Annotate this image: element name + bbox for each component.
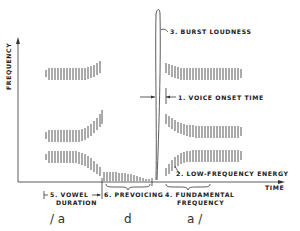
phoneme-labels: / a d a / [50,212,203,226]
voice-onset-time-label: 1. VOICE ONSET TIME [178,94,264,101]
vowel2-f3 [166,63,241,80]
x-axis-label: TIME [265,184,284,191]
fundamental-frequency-label-1: 4. FUNDAMENTAL [165,191,235,198]
phoneme-a-initial: / a [50,212,65,226]
prevoicing-label: 6. PREVOICING [104,191,163,198]
vowel1-f2 [46,110,102,142]
vowel2-f2 [166,114,241,138]
vowel2-formants [166,63,241,176]
burst-spike [156,10,161,181]
speech-cue-diagram: FREQUENCY TIME [0,0,300,231]
annotation-low-frequency-energy: 2. LOW-FREQUENCY ENERGY [175,166,289,177]
annotation-burst-loudness: 3. BURST LOUDNESS [161,28,252,35]
time-axis: TIME [18,180,285,191]
prevoicing-bars [104,172,149,181]
low-frequency-energy-label: 2. LOW-FREQUENCY ENERGY [176,170,289,177]
vowel1-f3 [46,61,100,80]
fundamental-frequency-label-2: FREQUENCY [177,199,224,206]
y-axis-label: FREQUENCY [5,43,12,90]
vowel-duration-label-2: DURATION [56,199,97,206]
annotation-voice-onset-time: 1. VOICE ONSET TIME [140,88,264,104]
vowel1-formants [46,61,102,176]
frequency-axis: FREQUENCY [5,37,20,182]
phoneme-d: d [124,212,132,226]
segment-labels: 5. VOWEL DURATION 6. PREVOICING 4. FUNDA… [50,191,235,206]
vowel1-f1 [46,151,100,176]
y-axis-arrow-icon [16,37,20,44]
burst-loudness-label: 3. BURST LOUDNESS [170,28,252,35]
vowel-duration-label-1: 5. VOWEL [50,191,89,198]
phoneme-a-final: a / [187,212,203,226]
